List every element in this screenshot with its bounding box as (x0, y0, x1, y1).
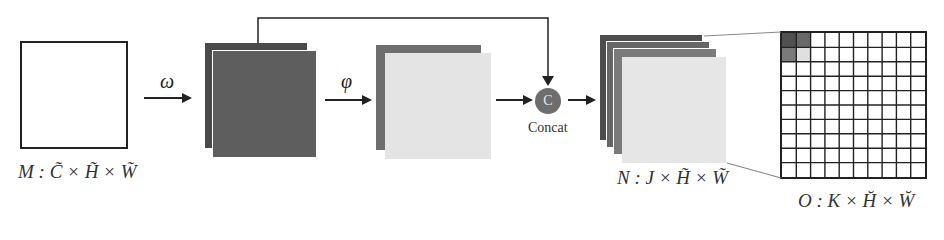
projection-bottom (727, 163, 781, 178)
output-n-label: N : J × H̃ × W̃ (617, 167, 728, 189)
phi-symbol: φ (341, 70, 352, 93)
stage1-layer-front (213, 51, 316, 157)
output-o-grid (780, 31, 927, 179)
concat-node: C (535, 88, 561, 114)
concat-label: Concat (528, 120, 568, 136)
grid-lines (782, 33, 925, 177)
input-tensor-m (20, 41, 128, 149)
stage2-layer-front (385, 53, 491, 159)
projection-top (704, 32, 781, 36)
output-o-label: O : K × H̆ × W̆ (798, 190, 914, 212)
output-n-layer-4 (622, 57, 726, 163)
input-tensor-m-label: M : C̃ × H̃ × W̃ (18, 161, 137, 183)
omega-symbol: ω (160, 70, 174, 93)
